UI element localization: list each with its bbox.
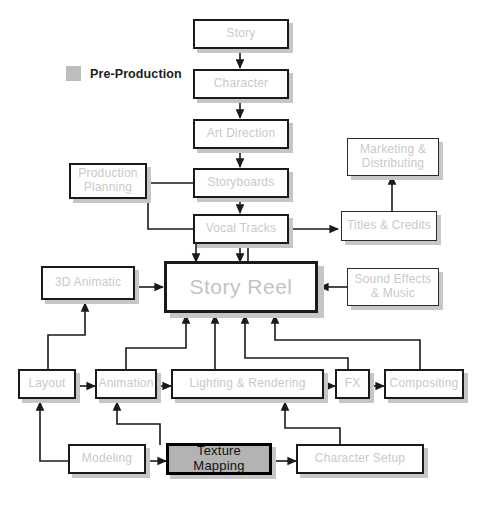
node-label: Animation xyxy=(94,377,157,391)
node-label: Character xyxy=(210,77,273,91)
node-label: Texture Mapping xyxy=(169,444,269,474)
node-3d-animatic[interactable]: 3D Animatic xyxy=(41,266,135,300)
node-story[interactable]: Story xyxy=(193,19,289,49)
edge-charsetup-lighting xyxy=(285,402,340,445)
node-label: FX xyxy=(341,377,365,391)
node-compositing[interactable]: Compositing xyxy=(384,369,464,399)
node-layout[interactable]: Layout xyxy=(18,369,76,399)
legend-label-pre-production: Pre-Production xyxy=(90,67,182,81)
node-label: Vocal Tracks xyxy=(202,222,280,236)
legend: Pre-Production xyxy=(66,66,182,81)
node-character[interactable]: Character xyxy=(193,69,289,99)
node-story-reel[interactable]: Story Reel xyxy=(164,261,318,313)
node-label: Production Planning xyxy=(71,167,145,195)
node-sound-effects-music[interactable]: Sound Effects & Music xyxy=(347,268,439,306)
node-label: Character Setup xyxy=(311,452,409,466)
node-label: Story xyxy=(222,27,259,41)
node-marketing-distributing[interactable]: Marketing & Distributing xyxy=(347,138,439,176)
node-vocal-tracks[interactable]: Vocal Tracks xyxy=(193,214,289,244)
node-label: Compositing xyxy=(386,377,463,391)
node-storyboards[interactable]: Storyboards xyxy=(193,168,289,198)
node-titles-credits[interactable]: Titles & Credits xyxy=(341,211,437,241)
node-label: Marketing & Distributing xyxy=(348,143,438,171)
node-modeling[interactable]: Modeling xyxy=(68,444,146,474)
node-label: Storyboards xyxy=(204,176,279,190)
node-art-direction[interactable]: Art Direction xyxy=(193,119,289,149)
node-animation[interactable]: Animation xyxy=(95,369,157,399)
node-label: 3D Animatic xyxy=(51,276,125,290)
edge-modeling-layout xyxy=(40,402,68,461)
node-label: Lighting & Rendering xyxy=(185,377,309,391)
edge-fx-storyreel-up xyxy=(245,315,348,372)
node-label: Modeling xyxy=(78,452,136,466)
edge-layout-animatic xyxy=(48,303,85,372)
diagram-canvas: Pre-Production Story Character Art Direc… xyxy=(0,0,490,509)
node-label: Layout xyxy=(24,377,69,391)
node-production-planning[interactable]: Production Planning xyxy=(69,163,147,199)
edge-texture-animation xyxy=(117,402,160,445)
node-fx[interactable]: FX xyxy=(335,369,370,399)
node-label: Sound Effects & Music xyxy=(348,273,438,301)
legend-swatch-pre-production xyxy=(66,66,81,81)
node-label: Story Reel xyxy=(185,275,296,299)
node-lighting-rendering[interactable]: Lighting & Rendering xyxy=(171,369,324,399)
edge-planning-storyreel xyxy=(148,200,196,262)
node-character-setup[interactable]: Character Setup xyxy=(296,444,424,474)
node-texture-mapping[interactable]: Texture Mapping xyxy=(166,443,272,475)
edge-animation-storyreel-up xyxy=(126,315,186,372)
node-label: Art Direction xyxy=(203,127,280,141)
node-label: Titles & Credits xyxy=(343,219,435,233)
